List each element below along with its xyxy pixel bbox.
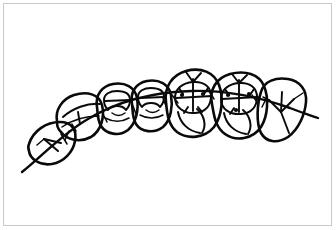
dental-arch-drawing xyxy=(0,0,336,230)
cusp-dot xyxy=(180,93,184,97)
figure-root: Occlusal view line drawing of a posterio… xyxy=(0,0,336,230)
tooth-rotated-anterior xyxy=(28,122,75,164)
arch-curve xyxy=(22,91,318,172)
tooth-molar-1 xyxy=(166,70,222,137)
cusp-dot xyxy=(201,92,205,96)
cusp-dot xyxy=(234,108,238,112)
